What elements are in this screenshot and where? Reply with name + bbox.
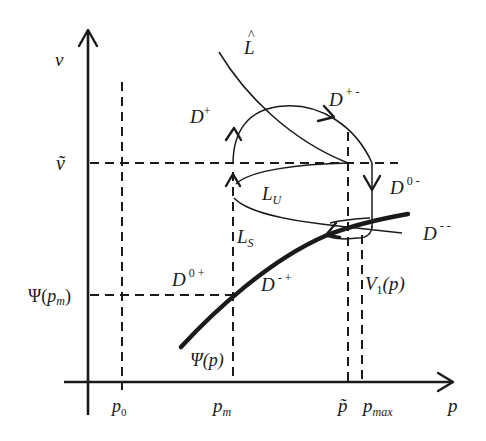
v1-label: V1(p) (365, 273, 405, 297)
region-d-plus-label: D+ (189, 104, 211, 127)
v-axis-label: v (55, 49, 64, 70)
svg-text:^: ^ (248, 28, 255, 43)
pmax-label: pmax (361, 395, 393, 419)
psi-p-label: Ψ(p) (190, 350, 224, 371)
region-d-plus-minus-label: D+ - (328, 85, 360, 110)
phase-diagram: v p ṽ Ψ(pm) p0 pm p̃ pmax L ^ LU LS Ψ(p)… (0, 0, 486, 441)
svg-text:Ψ(pm): Ψ(pm) (28, 286, 71, 308)
l-u-label: LU (261, 183, 283, 207)
p0-label: p0 (110, 396, 127, 418)
l-u-curve-lower (234, 198, 338, 226)
trajectory-arrows (226, 106, 380, 237)
p-tilde-label: p̃ (336, 395, 348, 416)
region-d-zero-plus-label: D0 + (171, 266, 205, 290)
l-hat-label: L ^ (243, 28, 255, 58)
trajectory-upper-arc (233, 106, 372, 164)
l-s-label: LS (236, 226, 254, 250)
l-u-curve-upper (236, 163, 348, 184)
pm-label: pm (211, 395, 232, 419)
region-d-minus-minus-label: D- - (422, 219, 451, 244)
region-d-zero-minus-label: D0 - (389, 174, 420, 198)
region-d-minus-plus-label: D- + (260, 271, 292, 295)
arrow-up-icon (226, 128, 241, 140)
p-axis-label: p (446, 395, 458, 416)
psi-pm-label: Ψ(pm) (28, 286, 71, 308)
v-tilde-label: ṽ (56, 152, 66, 174)
